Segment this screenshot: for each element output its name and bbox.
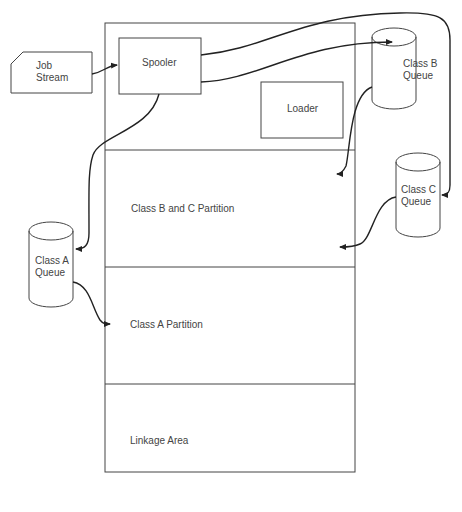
class-a-queue-line2: Queue	[35, 267, 69, 279]
spooler-label: Spooler	[142, 57, 176, 69]
arrow-spooler-to-class-b	[201, 42, 392, 82]
loader-label: Loader	[287, 103, 318, 115]
memory-column	[105, 23, 355, 472]
arrow-class-c-to-partition	[340, 197, 396, 247]
class-b-queue-line1: Class B	[403, 58, 437, 70]
class-b-queue-label: Class B Queue	[403, 58, 437, 82]
class-c-queue-label: Class C Queue	[401, 184, 436, 208]
arrow-spooler-to-class-c	[201, 13, 450, 195]
diagram-canvas	[0, 0, 462, 512]
class-b-queue-line2: Queue	[403, 70, 437, 82]
class-c-queue-line2: Queue	[401, 196, 436, 208]
linkage-area-label: Linkage Area	[130, 435, 188, 447]
class-a-queue-label: Class A Queue	[35, 255, 69, 279]
job-stream-label: Job Stream	[36, 60, 68, 84]
job-stream-line2: Stream	[36, 72, 68, 84]
partition-a-label: Class A Partition	[130, 319, 203, 331]
arrow-spooler-to-class-a	[76, 94, 159, 249]
arrow-class-a-to-partition	[73, 282, 110, 324]
class-c-queue-line1: Class C	[401, 184, 436, 196]
partition-b-c-label: Class B and C Partition	[131, 203, 234, 215]
class-a-queue-line1: Class A	[35, 255, 69, 267]
job-stream-line1: Job	[36, 60, 68, 72]
